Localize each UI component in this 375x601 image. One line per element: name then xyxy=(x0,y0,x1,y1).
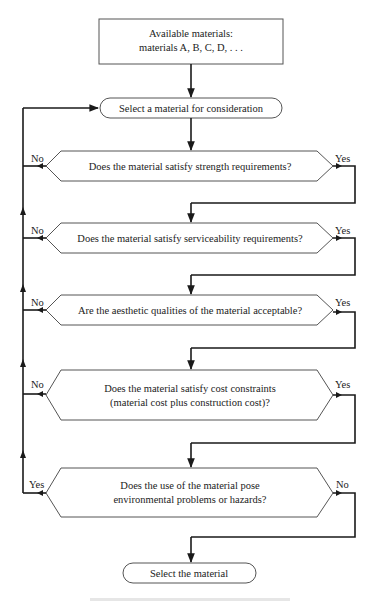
yes-arrow-icon xyxy=(37,490,43,496)
decision-environmental: Does the use of the material pose enviro… xyxy=(23,468,355,562)
decision-environmental-yes-label: Yes xyxy=(29,479,44,490)
select-the-material-text: Select the material xyxy=(150,568,228,579)
decision-strength: Does the material satisfy strength requi… xyxy=(23,151,355,222)
available-materials-line1: Available materials: xyxy=(149,28,233,39)
loop-up-arrow-icon xyxy=(20,450,26,458)
decision-aesthetic-no-label: No xyxy=(31,297,44,308)
loop-up-arrow-icon xyxy=(20,284,26,292)
decision-strength-no-label: No xyxy=(31,153,44,164)
no-arrow-icon xyxy=(37,391,43,397)
decision-cost-line1: Does the material satisfy cost constrain… xyxy=(104,383,276,394)
yes-arrow-icon xyxy=(336,392,342,398)
select-for-consideration-terminal: Select a material for consideration xyxy=(100,98,282,118)
decision-serviceability-text: Does the material satisfy serviceability… xyxy=(77,233,303,244)
decision-strength-text: Does the material satisfy strength requi… xyxy=(89,161,292,172)
yes-arrow-icon xyxy=(336,309,342,315)
available-materials-line2: materials A, B, C, D, . . . xyxy=(139,42,243,53)
decision-environmental-no-label: No xyxy=(336,479,349,490)
decision-serviceability: Does the material satisfy serviceability… xyxy=(23,223,355,294)
no-arrow-icon xyxy=(336,490,342,496)
select-the-material-terminal: Select the material xyxy=(123,563,256,583)
material-selection-flowchart: Available materials: materials A, B, C, … xyxy=(0,0,375,601)
select-for-consideration-text: Select a material for consideration xyxy=(119,103,264,114)
decision-serviceability-no-label: No xyxy=(31,225,44,236)
decision-aesthetic-text: Are the aesthetic qualities of the mater… xyxy=(78,305,303,316)
decision-strength-yes-label: Yes xyxy=(335,153,350,164)
decision-cost-yes-label: Yes xyxy=(335,379,350,390)
decision-environmental-line2: environmental problems or hazards? xyxy=(113,494,266,505)
decision-environmental-line1: Does the use of the material pose xyxy=(120,480,260,491)
loop-up-arrow-icon xyxy=(20,359,26,367)
decision-serviceability-yes-label: Yes xyxy=(335,225,350,236)
decision-aesthetic-yes-label: Yes xyxy=(335,297,350,308)
decision-cost: Does the material satisfy cost constrain… xyxy=(23,370,355,467)
decision-cost-no-label: No xyxy=(31,379,44,390)
decision-aesthetic: Are the aesthetic qualities of the mater… xyxy=(23,295,355,369)
loop-up-arrow-icon xyxy=(20,207,26,215)
available-materials-box: Available materials: materials A, B, C, … xyxy=(99,19,283,64)
decision-cost-line2: (material cost plus construction cost)? xyxy=(110,397,270,409)
